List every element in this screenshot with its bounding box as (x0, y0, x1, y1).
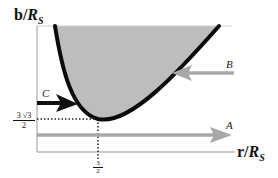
x-axis-title: r/RS (237, 143, 265, 163)
y-axis-title: b/RS (14, 6, 44, 26)
x-tick-label: 3 2 (93, 160, 103, 175)
arrow-a-label: A (226, 119, 233, 131)
y-tick-denominator: 2 (13, 121, 35, 130)
arrow-b-label: B (226, 58, 233, 70)
y-tick-label: 3 √3 2 (13, 111, 35, 130)
arrow-a (37, 127, 232, 143)
x-axis-title-sub: S (259, 152, 265, 163)
x-axis-title-main: r/ (237, 143, 249, 160)
arrow-c-label: C (42, 87, 49, 99)
y-axis-title-var: R (27, 6, 38, 23)
y-axis-title-sub: S (38, 15, 44, 26)
x-axis-title-var: R (249, 143, 260, 160)
x-tick-denominator: 2 (93, 168, 103, 175)
y-tick-numerator: 3 √3 (13, 111, 35, 121)
y-axis-title-main: b/ (14, 6, 27, 23)
